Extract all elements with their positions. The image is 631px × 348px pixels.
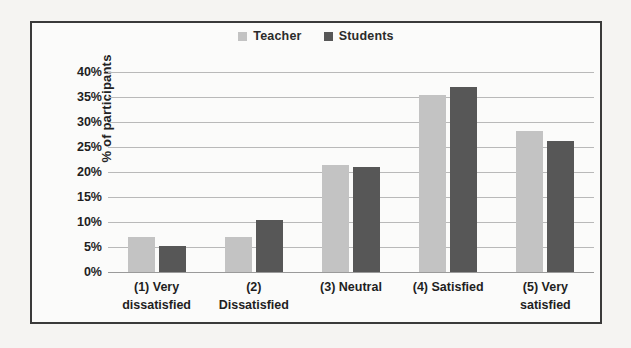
y-axis-tick-20: 20% <box>77 165 102 179</box>
bar-students-3 <box>353 167 380 272</box>
x-label-line: (2) <box>246 280 261 294</box>
x-label-3: (3) Neutral <box>302 278 399 296</box>
y-axis-tick-labels: 40%35%30%25%20%15%10%5%0% <box>50 23 102 322</box>
x-axis-category-labels: (1) Verydissatisfied(2)Dissatisfied(3) N… <box>108 278 594 324</box>
bar-group-4 <box>400 23 497 272</box>
y-axis-tick-15: 15% <box>77 190 102 204</box>
bar-students-2 <box>256 220 283 273</box>
x-label-line: dissatisfied <box>122 298 191 312</box>
chart-frame: Teacher Students % of participants 40%35… <box>30 21 602 324</box>
x-label-1: (1) Verydissatisfied <box>108 278 205 314</box>
y-axis-tick-35: 35% <box>77 90 102 104</box>
bar-group-3 <box>302 23 399 272</box>
bar-students-4 <box>450 87 477 272</box>
y-axis-tick-5: 5% <box>84 240 102 254</box>
bar-teacher-1 <box>128 237 155 272</box>
x-label-line: (5) Very <box>523 280 568 294</box>
bar-teacher-5 <box>516 131 543 272</box>
x-label-line: (4) Satisfied <box>413 280 484 294</box>
y-axis-tick-0: 0% <box>84 265 102 279</box>
bar-group-2 <box>205 23 302 272</box>
bar-students-5 <box>547 141 574 272</box>
bar-teacher-3 <box>322 165 349 273</box>
x-label-line: (1) Very <box>134 280 179 294</box>
page-background: Teacher Students % of participants 40%35… <box>0 0 631 348</box>
bar-group-1 <box>108 23 205 272</box>
bar-teacher-4 <box>419 95 446 273</box>
x-label-2: (2)Dissatisfied <box>205 278 302 314</box>
y-axis-tick-25: 25% <box>77 140 102 154</box>
x-label-5: (5) Verysatisfied <box>497 278 594 314</box>
y-axis-tick-40: 40% <box>77 65 102 79</box>
x-label-4: (4) Satisfied <box>400 278 497 296</box>
bar-group-5 <box>497 23 594 272</box>
bar-students-1 <box>159 246 186 272</box>
y-axis-tick-10: 10% <box>77 215 102 229</box>
y-axis-tick-30: 30% <box>77 115 102 129</box>
x-label-line: (3) Neutral <box>320 280 382 294</box>
bar-teacher-2 <box>225 237 252 272</box>
x-label-line: satisfied <box>520 298 571 312</box>
x-label-line: Dissatisfied <box>219 298 289 312</box>
